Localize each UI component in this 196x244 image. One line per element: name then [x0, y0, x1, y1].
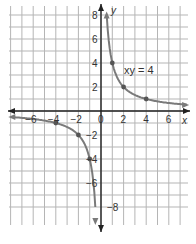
data-point: [76, 133, 81, 138]
arrow-left-icon: [8, 108, 15, 114]
y-tick-label: 4: [92, 58, 98, 69]
y-tick-label: −2: [86, 130, 98, 141]
arrow-up-icon: [98, 4, 104, 11]
data-point: [144, 97, 149, 102]
data-point: [110, 61, 115, 66]
equation-label: xy = 4: [124, 64, 154, 76]
data-point: [121, 85, 126, 90]
x-tick-label: −4: [48, 114, 60, 125]
x-tick-label: 6: [166, 114, 172, 125]
x-tick-label: 2: [121, 114, 127, 125]
x-axis-label: x: [181, 115, 188, 126]
curve-positive-branch: [107, 15, 187, 105]
curve-arrow-right-icon: [182, 102, 189, 108]
y-tick-label: 6: [92, 34, 98, 45]
curve-arrow-left-icon: [8, 114, 15, 120]
curve-negative-branch: [11, 117, 96, 207]
x-tick-label: −2: [70, 114, 82, 125]
y-tick-label: 2: [92, 82, 98, 93]
y-axis-label: y: [110, 5, 117, 16]
arrow-down-icon: [98, 225, 104, 232]
y-tick-label: 8: [92, 10, 98, 21]
y-tick-label: −4: [86, 154, 98, 165]
arrow-right-icon: [183, 108, 190, 114]
x-tick-label: −6: [25, 114, 37, 125]
curve-arrow-down-icon: [92, 218, 98, 225]
y-tick-label: −6: [86, 178, 98, 189]
y-tick-label: −8: [107, 202, 119, 213]
x-tick-label: 4: [143, 114, 149, 125]
x-tick-label: 0: [98, 114, 104, 125]
hyperbola-chart: −6−4−202468642−2−4−6−8 xy = 4 x y: [0, 0, 196, 244]
